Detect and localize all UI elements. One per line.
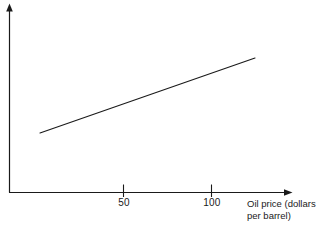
- x-tick-label-50: 50: [113, 197, 135, 208]
- x-axis-title: Oil price (dollars per barrel): [247, 198, 316, 221]
- chart-figure: 50 100 Oil price (dollars per barrel): [0, 0, 331, 233]
- x-axis-title-line-2: per barrel): [247, 210, 316, 222]
- x-tick-label-100: 100: [200, 197, 224, 208]
- x-axis-title-line-1: Oil price (dollars: [247, 198, 316, 210]
